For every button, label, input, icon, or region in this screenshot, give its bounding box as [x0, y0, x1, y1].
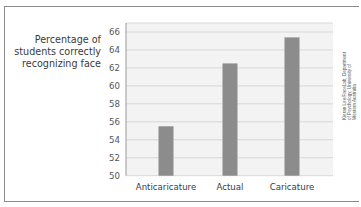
- bar: [285, 37, 300, 175]
- image-credit: Kieran Lee/FaceLab, Departmentof Psychol…: [342, 51, 357, 120]
- x-tick-label: Actual: [217, 182, 244, 192]
- bar: [223, 63, 238, 175]
- y-tick-label: 60: [109, 81, 120, 91]
- y-tick-label: 58: [109, 99, 120, 109]
- y-tick-label: 50: [109, 171, 120, 181]
- x-tick-label: Anticaricature: [136, 182, 196, 192]
- credit-line: Western Australia: [352, 84, 357, 120]
- y-tick-label: 66: [109, 27, 120, 37]
- bar-chart: 505254565860626466 AnticaricatureActualC…: [0, 0, 361, 207]
- y-tick-label: 56: [109, 117, 120, 127]
- y-tick-label: 64: [109, 45, 120, 55]
- y-tick-label: 52: [109, 153, 120, 163]
- y-tick-labels: 505254565860626466: [109, 27, 120, 181]
- y-tick-label: 62: [109, 63, 120, 73]
- x-tick-labels: AnticaricatureActualCaricature: [136, 182, 315, 192]
- bar: [159, 126, 174, 175]
- x-tick-label: Caricature: [270, 182, 315, 192]
- y-tick-label: 54: [109, 135, 120, 145]
